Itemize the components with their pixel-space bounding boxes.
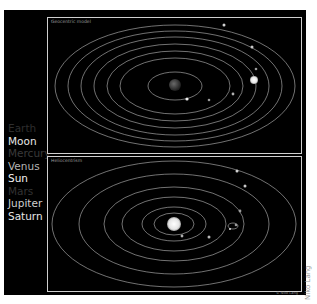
planet-legend: Earth Moon Mercury Venus Sun Mars Jupite…	[8, 122, 48, 222]
legend-item-mars: Mars	[8, 185, 48, 198]
legend-item-mercury: Mercury	[8, 147, 48, 160]
legend-item-moon: Moon	[8, 135, 48, 148]
mars-body	[255, 68, 258, 71]
sun-body	[167, 217, 181, 231]
geocentric-panel: Geocentric model	[47, 17, 302, 154]
saturn-body	[223, 24, 226, 27]
moon-body	[229, 228, 231, 230]
panel-title: Geocentric model	[51, 19, 91, 24]
mars-body	[239, 210, 242, 213]
legend-item-saturn: Saturn	[8, 210, 48, 223]
legend-item-earth: Earth	[8, 122, 48, 135]
legend-item-venus: Venus	[8, 160, 48, 173]
earth-body	[235, 224, 238, 227]
panel-title: Heliocentrism	[51, 158, 82, 163]
credit-small: © Niko Lang	[276, 291, 298, 295]
jupiter-body	[244, 185, 247, 188]
sun-body	[250, 76, 258, 84]
credit-vertical: Niko Lang	[304, 265, 312, 300]
heliocentric-orbits	[48, 157, 301, 291]
heliocentric-panel: Heliocentrism	[47, 156, 302, 292]
legend-item-jupiter: Jupiter	[8, 197, 48, 210]
venus-body	[232, 93, 235, 96]
legend-item-sun: Sun	[8, 172, 48, 185]
moon-body	[185, 97, 188, 100]
geocentric-orbits	[48, 18, 301, 153]
venus-body	[208, 236, 211, 239]
earth-body	[169, 79, 181, 91]
mercury-body	[181, 235, 184, 238]
mercury-body	[208, 99, 211, 102]
saturn-body	[236, 170, 239, 173]
jupiter-body	[251, 46, 254, 49]
